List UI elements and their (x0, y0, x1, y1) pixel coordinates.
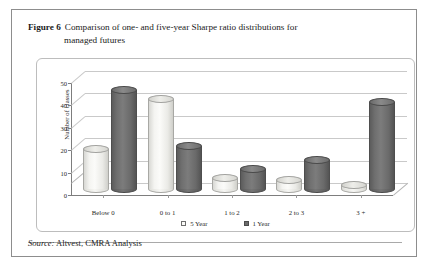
y-tick-mark (68, 195, 71, 196)
legend-swatch (181, 221, 186, 226)
source-line: Source: Altvest, CMRA Analysis (28, 238, 142, 248)
bar (176, 146, 202, 189)
gridline-connector (71, 116, 86, 129)
floor-right-edge (393, 183, 408, 196)
x-tick-label: 2 to 3 (264, 209, 328, 216)
x-tick-label: 0 to 1 (136, 209, 200, 216)
figure-caption: Figure 6Comparison of one- and five-year… (28, 21, 400, 46)
source-text: Altvest, CMRA Analysis (56, 238, 142, 248)
figure-title-line-1: Comparison of one- and five-year Sharpe … (65, 22, 298, 32)
bar-body (83, 149, 109, 189)
bar-top-ellipse (341, 181, 367, 189)
gridline-connector (71, 93, 86, 106)
bar (276, 180, 302, 189)
plot-area: 01020304050 Below 00 to 11 to 22 to 33 + (71, 71, 407, 207)
source-label: Source: (28, 238, 54, 248)
bar-top-ellipse (212, 174, 238, 182)
chart-legend: 5 Year1 Year (37, 220, 414, 227)
bar (148, 99, 174, 189)
legend-item[interactable]: 5 Year (181, 220, 207, 227)
gridline-connector (71, 71, 86, 84)
bar-top-ellipse (240, 165, 266, 173)
y-tick-mark (68, 105, 71, 106)
x-tick-mark (103, 195, 104, 198)
bar (240, 169, 266, 189)
y-tick-label: 0 (64, 192, 67, 199)
legend-label: 1 Year (253, 220, 270, 227)
chart-panel: Number of classes 01020304050 Below 00 t… (36, 58, 415, 232)
bar (212, 178, 238, 189)
legend-label: 5 Year (190, 220, 207, 227)
bar (369, 102, 395, 189)
bar-body (111, 90, 137, 189)
bar (304, 160, 330, 189)
y-tick-mark (68, 150, 71, 151)
x-tick-mark (296, 195, 297, 198)
gridline (85, 71, 407, 72)
bar-body (369, 102, 395, 189)
x-tick-label: Below 0 (71, 209, 135, 216)
y-tick-label: 20 (60, 147, 67, 154)
bar-body (148, 99, 174, 189)
legend-item[interactable]: 1 Year (244, 220, 270, 227)
bar (83, 149, 109, 189)
bar (111, 90, 137, 189)
y-tick-label: 30 (60, 124, 67, 131)
y-tick-mark (68, 83, 71, 84)
legend-swatch (244, 221, 249, 226)
y-tick-label: 10 (60, 169, 67, 176)
bar-top-ellipse (304, 156, 330, 164)
bar (341, 185, 367, 189)
figure-number: Figure 6 (28, 22, 61, 32)
bar-body (304, 160, 330, 189)
y-tick-label: 40 (60, 102, 67, 109)
bar-top-ellipse (369, 98, 395, 106)
figure-title-line-2: managed futures (64, 34, 400, 47)
x-tick-mark (232, 195, 233, 198)
x-tick-label: 1 to 2 (200, 209, 264, 216)
y-tick-mark (68, 128, 71, 129)
x-tick-mark (361, 195, 362, 198)
y-tick-label: 50 (60, 80, 67, 87)
bar-top-ellipse (83, 145, 109, 153)
y-tick-mark (68, 173, 71, 174)
figure-frame: Figure 6Comparison of one- and five-year… (11, 9, 417, 257)
x-tick-mark (168, 195, 169, 198)
y-axis-line (71, 83, 72, 195)
bar-body (176, 146, 202, 189)
x-tick-label: 3 + (329, 209, 393, 216)
